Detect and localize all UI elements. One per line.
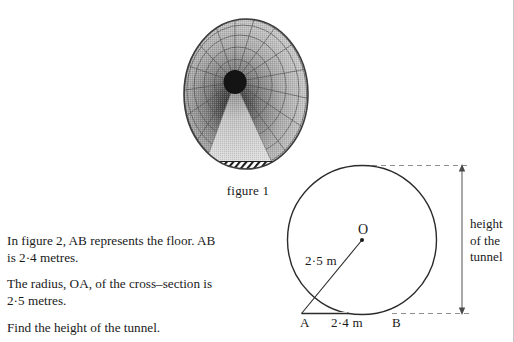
height-label-line-2: of the — [470, 233, 514, 250]
label-height-of-tunnel: height of the tunnel — [470, 216, 514, 266]
centre-point-o — [360, 238, 364, 242]
label-chord-length: 2·4 m — [331, 316, 363, 330]
question-paragraph-2: The radius, OA, of the cross–section is … — [7, 275, 222, 309]
label-point-a: A — [300, 316, 309, 330]
tunnel-perspective-svg — [183, 18, 313, 176]
worksheet-page: figure 1 O 2·5 m A 2·4 m B height of — [0, 0, 514, 342]
figure-1-illustration — [183, 18, 313, 176]
label-radius: 2·5 m — [305, 254, 337, 268]
question-paragraph-1: In figure 2, AB represents the floor. AB… — [7, 232, 222, 266]
tunnel-vanishing-point — [224, 70, 247, 94]
question-text-block: In figure 2, AB represents the floor. AB… — [7, 232, 222, 336]
label-centre-o: O — [358, 223, 368, 238]
question-paragraph-3: Find the height of the tunnel. — [7, 319, 222, 336]
height-label-line-1: height — [470, 216, 514, 233]
label-point-b: B — [392, 316, 401, 330]
height-label-line-3: tunnel — [470, 249, 514, 266]
radius-oa — [302, 240, 363, 314]
